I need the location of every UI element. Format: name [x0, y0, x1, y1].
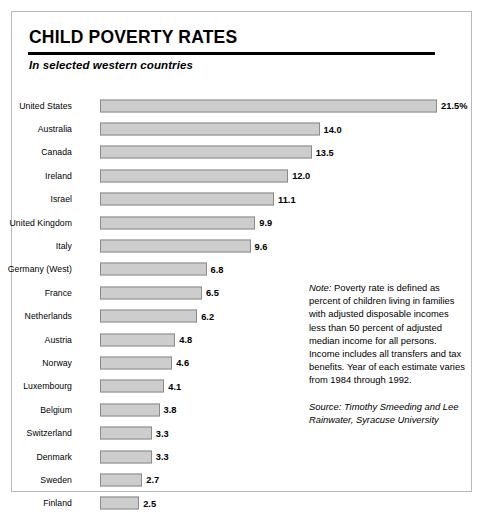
bar-track: 6.8: [100, 263, 457, 276]
bar-row: Canada13.5: [28, 141, 457, 164]
bar-category-label: Australia: [0, 124, 72, 134]
bar-value-label: 6.5: [206, 288, 219, 298]
bar: [100, 497, 139, 510]
bar-category-label: Netherlands: [0, 311, 72, 321]
chart-subtitle: In selected western countries: [29, 59, 457, 71]
bar-category-label: United Kingdom: [0, 218, 72, 228]
bar-row: Sweden2.7: [28, 468, 457, 491]
bar-row: United Kingdom9.9: [28, 211, 457, 234]
bar-value-label: 21.5%: [441, 101, 467, 111]
bar: [100, 356, 172, 369]
bar-track: 11.1: [100, 193, 457, 206]
bar-value-label: 12.0: [292, 171, 310, 181]
chart-inner: CHILD POVERTY RATES In selected western …: [28, 22, 457, 483]
bar-value-label: 14.0: [324, 124, 342, 134]
bar-value-label: 11.1: [278, 194, 296, 204]
page-title: CHILD POVERTY RATES: [29, 26, 457, 48]
bar-track: 14.0: [100, 123, 457, 136]
bar-category-label: Israel: [0, 194, 72, 204]
bar: [100, 310, 197, 323]
bar-category-label: Italy: [0, 241, 72, 251]
bar: [100, 403, 160, 416]
bar: [100, 193, 274, 206]
bar-category-label: Austria: [0, 335, 72, 345]
bar: [100, 169, 288, 182]
bar-value-label: 3.8: [164, 405, 177, 415]
bar-row: Denmark3.3: [28, 445, 457, 468]
note-lead: Note:: [309, 282, 331, 293]
bar-row: Germany (West)6.8: [28, 258, 457, 281]
bar-track: 3.3: [100, 427, 457, 440]
bar-row: Ireland12.0: [28, 164, 457, 187]
bar-track: 21.5%: [100, 99, 457, 112]
bar-value-label: 3.3: [156, 428, 169, 438]
bar: [100, 123, 320, 136]
bar-value-label: 6.2: [201, 311, 214, 321]
bar-track: 3.3: [100, 450, 457, 463]
bar-value-label: 4.8: [179, 335, 192, 345]
bar: [100, 473, 142, 486]
title-rule: [28, 52, 435, 55]
bar-track: 2.7: [100, 473, 457, 486]
bar: [100, 240, 251, 253]
bar-category-label: Belgium: [0, 405, 72, 415]
bar: [100, 380, 164, 393]
bar: [100, 427, 152, 440]
bar-category-label: Finland: [0, 498, 72, 508]
bar-track: 9.9: [100, 216, 457, 229]
bar-value-label: 9.6: [255, 241, 268, 251]
bar-value-label: 13.5: [316, 147, 334, 157]
bar-row: Israel11.1: [28, 188, 457, 211]
bar-track: 9.6: [100, 240, 457, 253]
bar: [100, 146, 312, 159]
bar-row: United States21.5%: [28, 94, 457, 117]
bar-category-label: Germany (West): [0, 264, 72, 274]
bar: [100, 99, 437, 112]
bar: [100, 333, 175, 346]
bar: [100, 216, 255, 229]
bar-track: 2.5: [100, 497, 457, 510]
bar: [100, 286, 202, 299]
note-body: Poverty rate is defined as percent of ch…: [309, 282, 465, 385]
bar-track: 12.0: [100, 169, 457, 182]
bar-category-label: Ireland: [0, 171, 72, 181]
bar-category-label: Norway: [0, 358, 72, 368]
bar-row: Australia14.0: [28, 117, 457, 140]
bar-row: Finland2.5: [28, 492, 457, 514]
bar-value-label: 4.1: [168, 381, 181, 391]
bar: [100, 450, 152, 463]
bar-value-label: 6.8: [211, 264, 224, 274]
bar-category-label: Switzerland: [0, 428, 72, 438]
chart-panel: CHILD POVERTY RATES In selected western …: [11, 11, 472, 492]
bar-value-label: 3.3: [156, 452, 169, 462]
bar: [100, 263, 207, 276]
source-text: Source: Timothy Smeeding and Lee Rainwat…: [309, 400, 466, 426]
bar-value-label: 9.9: [259, 218, 272, 228]
bar-category-label: Sweden: [0, 475, 72, 485]
bar-category-label: Luxembourg: [0, 381, 72, 391]
bar-category-label: France: [0, 288, 72, 298]
note-block: Note: Poverty rate is defined as percent…: [309, 281, 466, 426]
bar-category-label: Canada: [0, 147, 72, 157]
note-text: Note: Poverty rate is defined as percent…: [309, 281, 466, 387]
bar-value-label: 4.6: [176, 358, 189, 368]
bar-category-label: Denmark: [0, 452, 72, 462]
bar-category-label: United States: [0, 101, 72, 111]
bar-track: 13.5: [100, 146, 457, 159]
bar-value-label: 2.7: [146, 475, 159, 485]
bar-row: Italy9.6: [28, 234, 457, 257]
bar-value-label: 2.5: [143, 498, 156, 508]
